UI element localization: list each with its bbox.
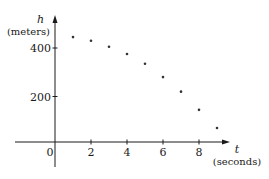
- x-tick-label: 8: [196, 146, 203, 159]
- data-point: [72, 36, 75, 39]
- data-point: [108, 45, 111, 48]
- x-tick-label: 4: [124, 146, 131, 159]
- data-point: [198, 109, 201, 112]
- x-tick-label: 6: [160, 146, 167, 159]
- y-axis-variable-label: h: [37, 13, 44, 26]
- y-tick-label: 200: [30, 91, 51, 104]
- data-point: [90, 39, 93, 42]
- data-point: [180, 90, 183, 93]
- y-axis-unit-label: (meters): [7, 26, 50, 37]
- x-axis-unit-label: (seconds): [213, 156, 262, 167]
- x-axis-variable-label: t: [235, 143, 240, 156]
- x-axis-arrow-icon: [222, 140, 230, 145]
- data-point: [162, 76, 165, 79]
- origin-label: 0: [47, 146, 54, 159]
- ticks: 2468200400: [30, 42, 203, 159]
- x-tick-label: 2: [88, 146, 95, 159]
- data-point: [144, 62, 147, 65]
- data-points: [72, 36, 219, 130]
- data-point: [216, 127, 219, 130]
- height-vs-time-chart: 2468200400 h (meters) t (seconds) 0: [0, 0, 269, 179]
- y-tick-label: 400: [30, 42, 51, 55]
- data-point: [126, 53, 129, 56]
- y-axis-arrow-icon: [53, 15, 58, 23]
